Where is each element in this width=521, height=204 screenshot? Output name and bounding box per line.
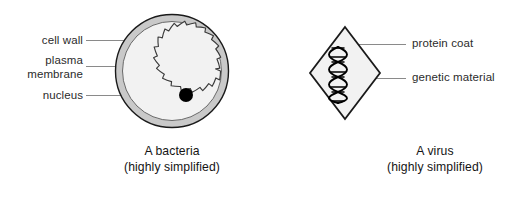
- label-plasma-membrane-line2: membrane: [27, 67, 83, 81]
- caption-bacteria-line2: (highly simplified): [82, 159, 262, 175]
- label-nucleus: nucleus: [43, 88, 83, 102]
- caption-bacteria: A bacteria (highly simplified): [82, 143, 262, 175]
- bacteria-graphic: [86, 15, 229, 128]
- label-plasma-membrane-line1: plasma: [27, 53, 83, 67]
- label-protein-coat-text: protein coat: [412, 37, 473, 49]
- label-genetic-material: genetic material: [412, 70, 495, 84]
- label-protein-coat: protein coat: [412, 36, 473, 50]
- label-nucleus-text: nucleus: [43, 89, 83, 101]
- label-cell-wall: cell wall: [42, 33, 83, 47]
- label-genetic-material-text: genetic material: [412, 71, 495, 83]
- caption-virus-line1: A virus: [345, 143, 521, 159]
- caption-bacteria-line1: A bacteria: [82, 143, 262, 159]
- caption-virus-line2: (highly simplified): [345, 159, 521, 175]
- label-plasma-membrane: plasma membrane: [27, 53, 83, 81]
- virus-graphic: [310, 27, 406, 119]
- nucleus-dot: [179, 88, 193, 102]
- label-cell-wall-text: cell wall: [42, 34, 83, 46]
- caption-virus: A virus (highly simplified): [345, 143, 521, 175]
- diagram-figure: cell wall plasma membrane nucleus protei…: [0, 0, 521, 204]
